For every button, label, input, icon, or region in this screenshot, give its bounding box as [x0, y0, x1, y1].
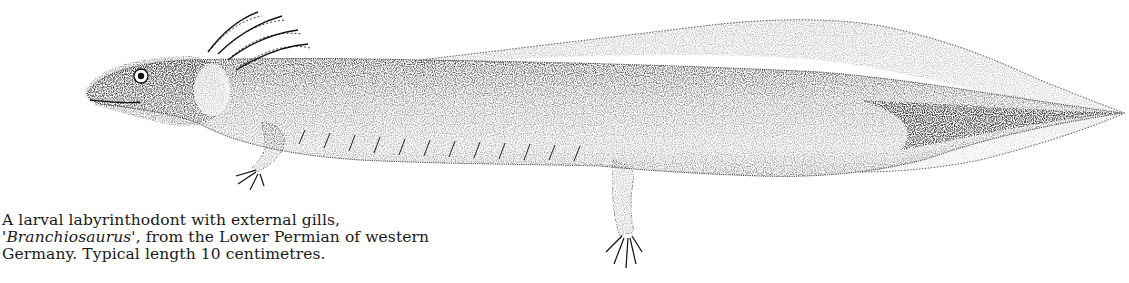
caption-taxon-name: Branchiosaurus — [6, 228, 131, 246]
caption-line-3: Germany. Typical length 10 centimetres. — [2, 246, 562, 263]
caption-line-2: 'Branchiosaurus', from the Lower Permian… — [2, 229, 562, 246]
head — [86, 56, 231, 126]
figure-caption: A larval labyrinthodont with external gi… — [2, 212, 562, 263]
caption-line-2-rest: ', from the Lower Permian of western — [131, 228, 429, 246]
hindlimb — [606, 160, 642, 268]
caption-line-1: A larval labyrinthodont with external gi… — [2, 212, 562, 229]
